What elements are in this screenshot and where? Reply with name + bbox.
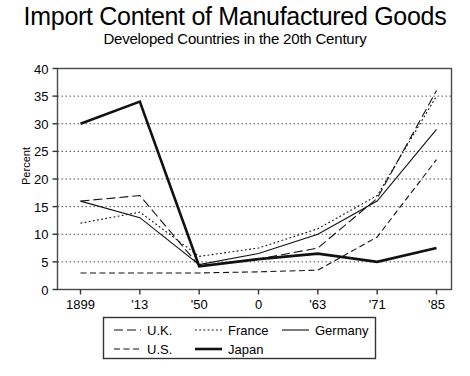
x-tick-label: 0 — [255, 297, 262, 312]
x-tick-label: '71 — [369, 297, 386, 312]
x-axis-tick-labels: 1899'13'500'63'71'85 — [66, 297, 445, 312]
legend-label-us: U.S. — [147, 342, 172, 357]
chart-figure: Import Content of Manufactured Goods Dev… — [0, 0, 470, 376]
y-tick-label: 35 — [34, 89, 48, 104]
x-tick-label: '13 — [131, 297, 148, 312]
x-tick-label: '63 — [309, 297, 326, 312]
y-tick-label: 40 — [34, 62, 48, 77]
y-tick-label: 15 — [34, 200, 48, 215]
x-tick-label: 1899 — [66, 297, 95, 312]
legend-label-france: France — [228, 323, 268, 338]
y-tick-label: 0 — [41, 283, 48, 298]
x-tick-label: '50 — [191, 297, 208, 312]
legend-label-japan: Japan — [228, 342, 263, 357]
legend-label-uk: U.K. — [147, 323, 172, 338]
x-axis-ticks — [81, 290, 437, 295]
x-tick-label: '85 — [428, 297, 445, 312]
y-tick-label: 25 — [34, 144, 48, 159]
y-tick-label: 20 — [34, 172, 48, 187]
chart-canvas: 0510152025303540 1899'13'500'63'71'85 U.… — [0, 0, 470, 376]
y-axis-tick-labels: 0510152025303540 — [34, 62, 48, 298]
y-axis-ticks — [53, 69, 58, 290]
y-tick-label: 30 — [34, 117, 48, 132]
y-tick-label: 10 — [34, 227, 48, 242]
legend-label-germany: Germany — [315, 323, 369, 338]
y-tick-label: 5 — [41, 255, 48, 270]
